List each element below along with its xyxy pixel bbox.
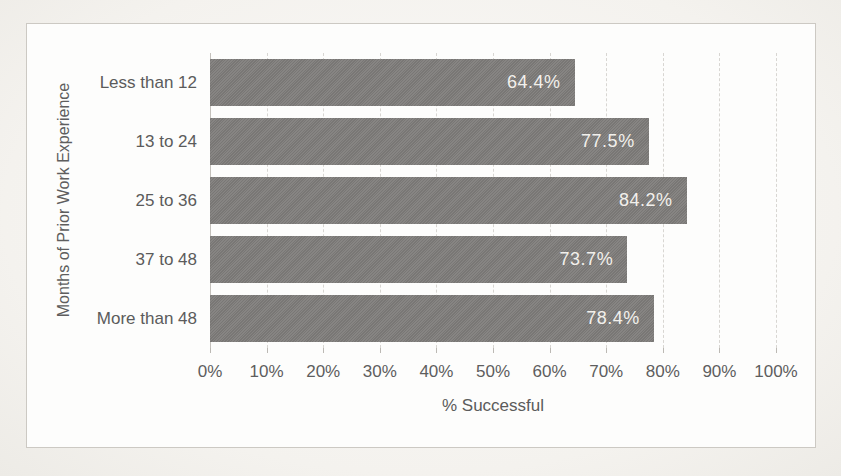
gridline-100% xyxy=(776,53,777,348)
plot-area: 64.4%77.5%84.2%73.7%78.4% xyxy=(210,53,776,348)
bar-data-label: 78.4% xyxy=(586,295,640,342)
tick-mark-20% xyxy=(323,348,324,353)
bar-data-label: 77.5% xyxy=(581,118,635,165)
category-label-37-to-48: 37 to 48 xyxy=(37,236,197,283)
tick-mark-0% xyxy=(210,348,211,353)
scanned-page-background: Months of Prior Work Experience 64.4%77.… xyxy=(0,0,841,476)
tick-mark-80% xyxy=(663,348,664,353)
tick-mark-40% xyxy=(436,348,437,353)
tick-mark-60% xyxy=(550,348,551,353)
category-label-more-than-48: More than 48 xyxy=(37,295,197,342)
tick-mark-10% xyxy=(267,348,268,353)
tick-mark-90% xyxy=(719,348,720,353)
category-label-13-to-24: 13 to 24 xyxy=(37,118,197,165)
chart-frame: Months of Prior Work Experience 64.4%77.… xyxy=(26,23,816,448)
bar-25-to-36: 84.2% xyxy=(210,177,687,224)
bar-data-label: 64.4% xyxy=(507,59,561,106)
bar-13-to-24: 77.5% xyxy=(210,118,649,165)
x-axis-title: % Successful xyxy=(210,396,776,416)
category-label-less-than-12: Less than 12 xyxy=(37,59,197,106)
bar-37-to-48: 73.7% xyxy=(210,236,627,283)
bar-data-label: 73.7% xyxy=(560,236,614,283)
gridline-90% xyxy=(719,53,720,348)
tick-label-100%: 100% xyxy=(741,362,811,382)
tick-mark-100% xyxy=(776,348,777,353)
tick-mark-70% xyxy=(606,348,607,353)
bar-data-label: 84.2% xyxy=(619,177,673,224)
bar-less-than-12: 64.4% xyxy=(210,59,575,106)
bar-more-than-48: 78.4% xyxy=(210,295,654,342)
tick-mark-30% xyxy=(380,348,381,353)
category-label-25-to-36: 25 to 36 xyxy=(37,177,197,224)
tick-mark-50% xyxy=(493,348,494,353)
